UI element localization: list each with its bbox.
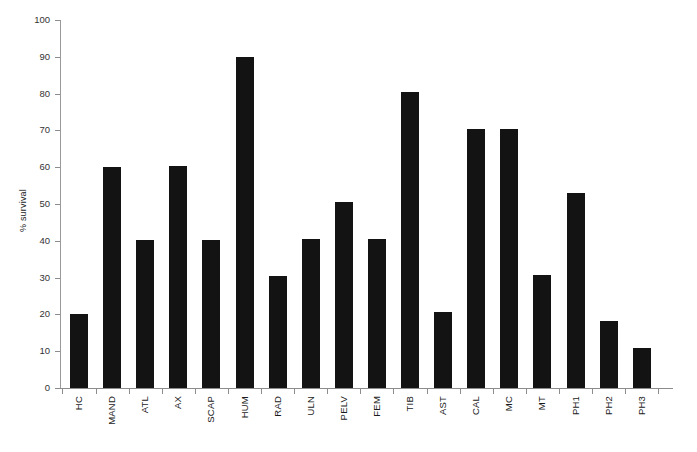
x-axis-line [60,388,673,389]
y-axis-tick [55,94,60,95]
y-axis-tick [55,167,60,168]
bar [236,57,254,388]
x-axis-tick [62,389,63,394]
bar [633,348,651,388]
y-axis-tick [55,57,60,58]
bar [467,129,485,388]
x-axis-category-label: PH3 [637,396,647,415]
x-axis-tick [393,389,394,394]
x-axis-tick [261,389,262,394]
bar [269,276,287,388]
y-axis-tick-label: 60 [20,162,50,172]
y-axis-tick-label: 100 [20,15,50,25]
x-axis-category-label: ULN [306,396,316,416]
x-axis-tick [427,389,428,394]
x-axis-tick [294,389,295,394]
x-axis-category-label: MAND [107,396,117,425]
bar [434,312,452,388]
y-axis-tick-label: 50 [20,199,50,209]
x-axis-tick [658,389,659,394]
x-axis-category-label: PH1 [571,396,581,415]
y-axis-tick [55,388,60,389]
y-axis-tick-label: 10 [20,346,50,356]
x-axis-category-label: PELV [339,396,349,420]
y-axis-tick-label: 70 [20,125,50,135]
y-axis-tick [55,204,60,205]
bar [70,314,88,388]
bar [533,275,551,388]
y-axis-line [60,20,61,389]
x-axis-tick [195,389,196,394]
bar [103,167,121,388]
y-axis-tick-label: 0 [20,383,50,393]
x-axis-category-label: AX [173,396,183,409]
bar [169,166,187,388]
y-axis-tick [55,314,60,315]
bar [302,239,320,388]
y-axis-tick-label: 40 [20,236,50,246]
bar-chart: % survival 0102030405060708090100 HCMAND… [0,0,697,452]
x-axis-tick [625,389,626,394]
x-axis-tick [360,389,361,394]
bar [202,240,220,388]
x-axis-tick [96,389,97,394]
bar [567,193,585,388]
x-axis-category-label: MC [504,396,514,411]
x-axis-category-label: ATL [140,396,150,413]
x-axis-category-label: MT [537,396,547,410]
x-axis-tick [327,389,328,394]
bar [136,240,154,388]
x-axis-tick [129,389,130,394]
bar [600,321,618,388]
x-axis-category-label: SCAP [206,396,216,423]
y-axis-tick [55,351,60,352]
x-axis-tick [592,389,593,394]
x-axis-tick [162,389,163,394]
bar [368,239,386,388]
bar [335,202,353,388]
x-axis-category-label: AST [438,396,448,415]
x-axis-category-label: CAL [471,396,481,415]
x-axis-tick [228,389,229,394]
x-axis-tick [493,389,494,394]
bar [401,92,419,388]
y-axis-tick-label: 90 [20,52,50,62]
y-axis-tick [55,20,60,21]
y-axis-tick-label: 80 [20,89,50,99]
x-axis-category-label: HC [74,396,84,410]
x-axis-category-label: TIB [405,396,415,411]
y-axis-tick [55,241,60,242]
bar [500,129,518,388]
y-axis-tick [55,278,60,279]
x-axis-tick [559,389,560,394]
x-axis-category-label: HUM [240,396,250,418]
x-axis-category-label: PH2 [604,396,614,415]
y-axis-tick-label: 30 [20,273,50,283]
x-axis-tick [526,389,527,394]
y-axis-tick [55,130,60,131]
x-axis-category-label: FEM [372,396,382,417]
x-axis-tick [460,389,461,394]
x-axis-category-label: RAD [273,396,283,417]
y-axis-tick-label: 20 [20,309,50,319]
